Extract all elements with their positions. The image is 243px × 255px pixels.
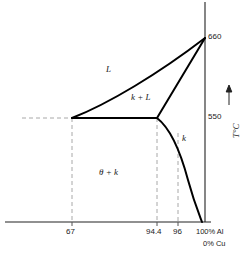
region-label-kappa: k — [182, 134, 186, 143]
composition-tick-67: 67 — [66, 228, 75, 236]
temperature-axis-title: T°C — [232, 123, 241, 138]
region-label-liquid: L — [106, 65, 111, 74]
composition-tick-94-4: 94.4 — [146, 228, 162, 236]
temperature-tick-550: 550 — [208, 113, 221, 121]
composition-end-label-cu: 0% Cu — [203, 240, 226, 248]
region-label-kappa-plus-liquid: k + L — [131, 93, 151, 102]
composition-end-label-al: 100% Al — [196, 228, 224, 236]
composition-tick-96: 96 — [173, 228, 182, 236]
region-label-theta-plus-kappa: θ + k — [99, 168, 118, 177]
phase-diagram: 660 550 T°C 67 94.4 96 100% Al 0% Cu L k… — [0, 0, 243, 255]
temperature-tick-660: 660 — [208, 33, 221, 41]
liquidus-curve-right — [157, 38, 205, 118]
solvus-curve — [157, 118, 202, 222]
liquidus-curve-left — [72, 38, 205, 118]
temperature-axis-arrow — [226, 85, 232, 105]
phase-boundaries — [72, 38, 205, 222]
arrow-head-icon — [226, 85, 232, 92]
composition-tick-marks — [72, 222, 178, 226]
axes-lines — [5, 2, 211, 222]
phase-diagram-canvas — [0, 0, 243, 255]
